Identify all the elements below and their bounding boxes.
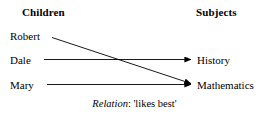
caption-relation-value: : 'likes best'	[128, 98, 177, 109]
figure-caption: Relation: 'likes best'	[0, 98, 269, 109]
relation-diagram: Children Subjects Robert Dale Mary Histo…	[0, 0, 269, 119]
edge-robert-mathematics	[52, 38, 191, 84]
caption-relation-word: Relation	[92, 98, 128, 109]
